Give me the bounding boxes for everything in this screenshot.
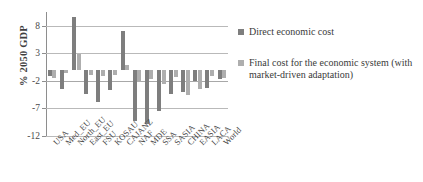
chart-container: % 2050 GDP 83-2-7-12 Direct economic cos… <box>0 0 423 182</box>
bar-east_eu-final <box>89 70 93 76</box>
bar-usa-final <box>52 70 56 78</box>
bar-group-china <box>179 12 191 136</box>
plot-area: 83-2-7-12 <box>46 12 228 136</box>
bar-kosau-direct <box>108 70 112 90</box>
bar-sasia-final <box>174 70 178 77</box>
y-tick-label: -2 <box>32 76 40 86</box>
y-axis-title: % 2050 GDP <box>18 11 29 101</box>
bar-group-cajanz <box>119 12 131 136</box>
bar-group-med_eu <box>58 12 70 136</box>
legend-label-direct: Direct economic cost <box>249 26 334 39</box>
bar-laca-final <box>210 70 214 76</box>
bar-north_eu-direct <box>72 17 76 70</box>
bar-ssa-direct <box>157 70 161 111</box>
bar-ssa-final <box>162 70 166 84</box>
bar-group-usa <box>46 12 58 136</box>
bar-mde-final <box>149 70 153 79</box>
bar-china-direct <box>181 70 185 92</box>
bar-group-naf <box>131 12 143 136</box>
bar-china-final <box>186 70 190 95</box>
bar-world-direct <box>218 70 222 79</box>
bar-group-world <box>216 12 228 136</box>
bar-usa-direct <box>48 70 52 77</box>
y-tick-mark--12 <box>42 136 46 137</box>
bar-cajanz-direct <box>121 31 125 70</box>
bar-laca-direct <box>205 70 209 88</box>
bar-naf-direct <box>133 70 137 121</box>
bar-med_eu-direct <box>60 70 64 89</box>
bar-naf-final <box>137 70 141 82</box>
chart-legend: Direct economic cost Final cost for the … <box>238 26 418 100</box>
bar-easia-final <box>198 70 202 89</box>
bar-med_eu-final <box>64 70 68 73</box>
legend-label-final: Final cost for the economic system (with… <box>249 57 418 82</box>
y-tick-label: -7 <box>32 103 40 113</box>
bar-world-final <box>222 70 226 78</box>
legend-swatch-icon-final <box>238 60 244 66</box>
bar-easia-direct <box>193 70 197 81</box>
y-tick-label: -12 <box>27 131 40 141</box>
bar-fsu-direct <box>96 70 100 103</box>
bar-kosau-final <box>113 70 117 76</box>
bar-east_eu-direct <box>84 70 88 94</box>
bar-group-north_eu <box>70 12 82 136</box>
bar-group-easia <box>192 12 204 136</box>
bar-group-ssa <box>155 12 167 136</box>
bar-fsu-final <box>101 70 105 76</box>
bar-group-sasia <box>167 12 179 136</box>
bar-sasia-direct <box>169 70 173 94</box>
y-tick-label: 3 <box>35 48 40 58</box>
bar-group-laca <box>204 12 216 136</box>
bar-north_eu-final <box>77 54 81 69</box>
legend-item-direct-economic-cost: Direct economic cost <box>238 26 418 39</box>
y-tick-label: 8 <box>35 21 40 31</box>
bar-cajanz-final <box>125 65 129 70</box>
legend-item-final-cost: Final cost for the economic system (with… <box>238 57 418 82</box>
legend-swatch-icon-direct <box>238 29 244 35</box>
